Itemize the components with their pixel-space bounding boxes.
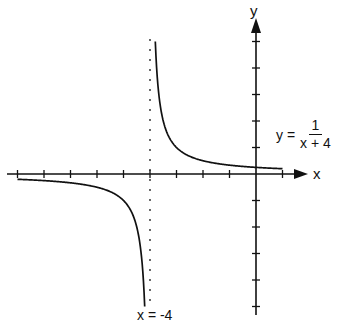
- asymptote-dot: [149, 49, 151, 51]
- curve-left-branch: [18, 179, 145, 306]
- asymptote-label: x = -4: [137, 307, 172, 323]
- x-axis-arrow-icon: [294, 169, 308, 179]
- asymptote-dot: [149, 159, 151, 161]
- y-axis-arrow-icon: [251, 18, 261, 33]
- asymptote-dot: [149, 129, 151, 131]
- asymptote-dot: [149, 239, 151, 241]
- asymptote-dot: [149, 189, 151, 191]
- asymptote-dot: [149, 69, 151, 71]
- asymptote-dot: [149, 299, 151, 301]
- asymptote-dot: [149, 99, 151, 101]
- axes: [7, 18, 308, 315]
- asymptote-dot: [149, 179, 151, 181]
- equation-denominator: x + 4: [300, 135, 331, 151]
- equation-numerator: 1: [309, 118, 323, 135]
- asymptote-dot: [149, 229, 151, 231]
- y-axis-label: y: [250, 2, 258, 19]
- asymptote-dot: [149, 249, 151, 251]
- asymptote-dot: [149, 269, 151, 271]
- asymptote-dot: [149, 259, 151, 261]
- graph-canvas: [0, 0, 349, 329]
- curve-right-branch: [155, 42, 282, 169]
- equation-label: y = 1 x + 4: [276, 118, 331, 151]
- asymptote-dot: [149, 149, 151, 151]
- asymptote-dot: [149, 209, 151, 211]
- asymptote-dot: [149, 169, 151, 171]
- asymptote-dot: [149, 59, 151, 61]
- asymptote-dot: [149, 279, 151, 281]
- asymptote-dot: [149, 219, 151, 221]
- asymptote-dot: [149, 39, 151, 41]
- asymptote-dot: [149, 109, 151, 111]
- asymptote-dot: [149, 199, 151, 201]
- asymptote-dot: [149, 289, 151, 291]
- equation-lhs: y =: [276, 127, 295, 143]
- vertical-asymptote: [149, 39, 151, 301]
- asymptote-dot: [149, 139, 151, 141]
- equation-fraction: 1 x + 4: [300, 118, 331, 151]
- asymptote-dot: [149, 119, 151, 121]
- x-axis-label: x: [313, 165, 321, 182]
- asymptote-dot: [149, 79, 151, 81]
- asymptote-dot: [149, 89, 151, 91]
